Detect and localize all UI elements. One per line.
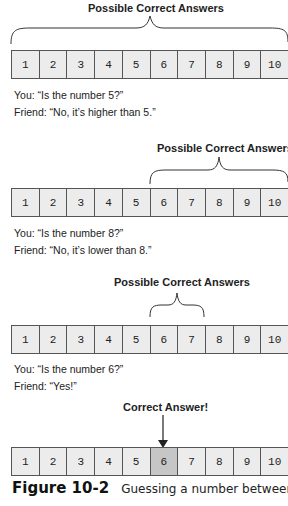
cell-10: 10 [261, 448, 288, 475]
step3-label: Possible Correct Answers [114, 276, 250, 288]
cell-3: 3 [67, 51, 95, 78]
figure-caption-text: Guessing a number between [121, 482, 288, 496]
cell-3: 3 [67, 326, 95, 353]
cell-10: 10 [261, 326, 288, 353]
cell-9: 9 [234, 189, 262, 216]
cell-10: 10 [261, 189, 288, 216]
cell-2: 2 [40, 51, 68, 78]
cell-1: 1 [12, 448, 40, 475]
cell-6: 6 [151, 51, 179, 78]
cell-4: 4 [95, 189, 123, 216]
cell-6-correct: 6 [151, 448, 179, 475]
figure-number: Figure 10-2 [12, 479, 109, 497]
cell-1: 1 [12, 326, 40, 353]
cell-5: 5 [123, 189, 151, 216]
step3-you-text: You: “Is the number 6?” [14, 361, 123, 378]
cell-2: 2 [40, 189, 68, 216]
step2-you-text: You: “Is the number 8?” [14, 225, 152, 242]
cell-5: 5 [123, 51, 151, 78]
step3-friend-text: Friend: “Yes!” [14, 378, 123, 395]
cell-4: 4 [95, 448, 123, 475]
step1-label: Possible Correct Answers [88, 2, 224, 14]
cell-9: 9 [234, 326, 262, 353]
number-row-2: 1 2 3 4 5 6 7 8 9 10 [11, 188, 288, 217]
number-row-3: 1 2 3 4 5 6 7 8 9 10 [11, 325, 288, 354]
cell-3: 3 [67, 189, 95, 216]
cell-8: 8 [206, 51, 234, 78]
step3-dialog: You: “Is the number 6?” Friend: “Yes!” [14, 361, 123, 395]
step2-label: Possible Correct Answers [157, 142, 288, 154]
step2-friend-text: Friend: “No, it’s lower than 8.” [14, 242, 152, 259]
cell-9: 9 [234, 448, 262, 475]
cell-7: 7 [178, 448, 206, 475]
step3-brace-icon [0, 290, 288, 320]
step1-friend-text: Friend: “No, it’s higher than 5.” [14, 104, 156, 121]
cell-7: 7 [178, 51, 206, 78]
cell-8: 8 [206, 189, 234, 216]
number-row-4: 1 2 3 4 5 6 7 8 9 10 [11, 447, 288, 476]
cell-10: 10 [261, 51, 288, 78]
step2-dialog: You: “Is the number 8?” Friend: “No, it’… [14, 225, 152, 259]
cell-9: 9 [234, 51, 262, 78]
cell-6: 6 [151, 326, 179, 353]
cell-3: 3 [67, 448, 95, 475]
step4-label: Correct Answer! [123, 401, 208, 413]
cell-1: 1 [12, 51, 40, 78]
figure-caption: Figure 10-2Guessing a number between [12, 479, 288, 497]
number-row-1: 1 2 3 4 5 6 7 8 9 10 [11, 50, 288, 79]
cell-7: 7 [178, 189, 206, 216]
cell-2: 2 [40, 326, 68, 353]
cell-7: 7 [178, 326, 206, 353]
cell-4: 4 [95, 51, 123, 78]
step1-brace-icon [0, 14, 288, 44]
cell-4: 4 [95, 326, 123, 353]
cell-5: 5 [123, 448, 151, 475]
cell-2: 2 [40, 448, 68, 475]
cell-6: 6 [151, 189, 179, 216]
step2-brace-icon [0, 154, 288, 184]
step1-dialog: You: “Is the number 5?” Friend: “No, it’… [14, 87, 156, 121]
cell-1: 1 [12, 189, 40, 216]
cell-8: 8 [206, 326, 234, 353]
step1-you-text: You: “Is the number 5?” [14, 87, 156, 104]
cell-8: 8 [206, 448, 234, 475]
cell-5: 5 [123, 326, 151, 353]
arrow-down-icon [153, 415, 173, 451]
